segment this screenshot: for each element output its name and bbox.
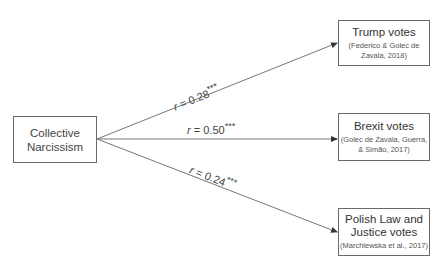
outcome-citation: (Golec de Zavala, Guerra, & Simão, 2017): [339, 135, 429, 155]
coefficient-brexit: r = 0.50***: [187, 121, 235, 136]
predictor-box: Collective Narcissism: [13, 116, 97, 163]
outcome-box-polish: Polish Law and Justice votes (Marchlewsk…: [338, 208, 430, 256]
outcome-label: Polish Law and Justice votes: [339, 213, 429, 239]
predictor-label: Collective Narcissism: [14, 126, 96, 154]
outcome-citation: (Federico & Golec de Zavala, 2018): [339, 41, 429, 61]
outcome-box-brexit: Brexit votes (Golec de Zavala, Guerra, &…: [338, 113, 430, 161]
outcome-label: Trump votes: [352, 26, 415, 39]
outcome-citation: (Marchlewska et al., 2017): [340, 241, 428, 251]
outcome-box-trump: Trump votes (Federico & Golec de Zavala,…: [338, 20, 430, 66]
outcome-label: Brexit votes: [354, 120, 414, 133]
